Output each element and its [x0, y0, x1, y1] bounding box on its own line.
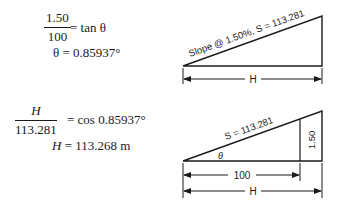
bottom-rise-label: 1.50	[306, 131, 317, 150]
diagrams-canvas: Slope @ 1.50%, S = 113.281 H S = 113.281…	[0, 0, 343, 206]
bottom-triangle: S = 113.281 θ 1.50 100 H	[183, 111, 322, 198]
top-slope-label: Slope @ 1.50%, S = 113.281	[187, 7, 306, 59]
top-triangle: Slope @ 1.50%, S = 113.281 H	[183, 7, 322, 85]
bottom-run-label: 100	[234, 170, 251, 181]
bottom-angle-label: θ	[218, 151, 223, 161]
top-h-label: H	[249, 74, 256, 85]
bottom-h-label: H	[249, 186, 256, 197]
